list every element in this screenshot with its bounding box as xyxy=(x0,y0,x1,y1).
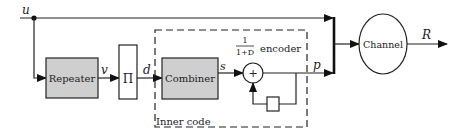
combiner-block: Combiner xyxy=(162,58,218,99)
encoder-transfer-function: 1 1+D encoder xyxy=(236,36,301,57)
signal-p-label: p xyxy=(313,58,321,72)
delay-block xyxy=(267,97,279,111)
interleaver-block: Π xyxy=(119,45,137,99)
u-to-repeater-line xyxy=(34,18,46,78)
signal-s-label: s xyxy=(220,60,226,73)
combiner-label: Combiner xyxy=(165,73,215,84)
plus-icon: + xyxy=(248,67,257,80)
tf-numerator: 1 xyxy=(242,36,247,45)
repeater-label: Repeater xyxy=(49,73,96,84)
signal-d-label: d xyxy=(143,63,151,77)
signal-u-label: u xyxy=(22,3,30,17)
interleaver-label: Π xyxy=(123,72,133,86)
channel-label: Channel xyxy=(363,39,403,50)
inner-code-label: Inner code xyxy=(156,116,211,127)
tf-denominator: 1+D xyxy=(236,48,254,57)
diagram-canvas: u Repeater v Π d Inner code Combiner s +… xyxy=(0,0,469,134)
signal-v-label: v xyxy=(101,63,108,77)
repeater-block: Repeater xyxy=(46,58,98,98)
u-input-line xyxy=(20,15,333,20)
signal-r-label: R xyxy=(421,28,431,42)
channel-block: Channel xyxy=(359,14,407,74)
adder-node: + xyxy=(243,63,263,83)
encoder-label: encoder xyxy=(260,43,301,54)
